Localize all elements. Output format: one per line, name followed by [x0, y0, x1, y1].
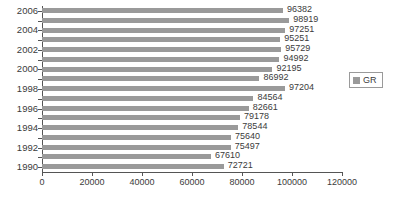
bar-row: 75497: [42, 143, 342, 153]
x-axis-label-60000: 60000: [179, 177, 204, 188]
bar-value-label: 79178: [244, 111, 269, 121]
bar: [42, 115, 240, 120]
bar-value-label: 94992: [283, 53, 308, 63]
bar-row: 82661: [42, 104, 342, 114]
y-axis-tick: [38, 109, 42, 110]
x-axis-label-120000: 120000: [327, 177, 357, 188]
bar-value-label: 95251: [284, 33, 309, 43]
bar-value-label: 95729: [285, 43, 310, 53]
bar-value-label: 67610: [215, 150, 240, 160]
bar-value-label: 92195: [276, 63, 301, 73]
x-axis: 020000400006000080000100000120000: [42, 172, 343, 202]
legend-label-gr: GR: [363, 75, 377, 85]
y-axis-tick: [38, 138, 42, 139]
bar: [42, 8, 283, 13]
bar-value-label: 86992: [263, 72, 288, 82]
bar-value-label: 97251: [289, 24, 314, 34]
bar-value-label: 82661: [253, 102, 278, 112]
y-axis-tick: [38, 21, 42, 22]
bar: [42, 28, 285, 33]
bar-value-label: 72721: [228, 160, 253, 170]
bar-row: 75640: [42, 133, 342, 143]
bar: [42, 154, 211, 159]
y-axis-tick: [38, 50, 42, 51]
bar: [42, 67, 272, 72]
x-axis-tick: [42, 172, 43, 176]
bar-value-label: 75640: [235, 131, 260, 141]
bar-value-label: 98919: [293, 14, 318, 24]
x-axis-tick: [242, 172, 243, 176]
x-axis-label-0: 0: [39, 177, 44, 188]
y-axis-tick: [38, 40, 42, 41]
bar: [42, 76, 259, 81]
y-axis-label-1994: 1994: [17, 123, 38, 133]
y-axis-label-2006: 2006: [17, 6, 38, 16]
bar-row: 84564: [42, 94, 342, 104]
y-axis-tick: [38, 89, 42, 90]
y-axis-label-2004: 2004: [17, 25, 38, 35]
y-axis-tick: [38, 148, 42, 149]
y-axis-tick: [38, 11, 42, 12]
bar-value-label: 84564: [257, 92, 282, 102]
y-axis-label-1990: 1990: [17, 162, 38, 172]
y-axis-tick: [38, 79, 42, 80]
x-axis-label-80000: 80000: [229, 177, 254, 188]
y-axis-tick: [38, 99, 42, 100]
bar-value-label: 78544: [242, 121, 267, 131]
x-axis-label-100000: 100000: [277, 177, 307, 188]
y-axis-tick: [38, 128, 42, 129]
y-axis-label-2000: 2000: [17, 64, 38, 74]
y-axis-tick: [38, 118, 42, 119]
x-axis-label-40000: 40000: [129, 177, 154, 188]
x-axis-label-20000: 20000: [79, 177, 104, 188]
bar-value-label: 75497: [235, 141, 260, 151]
bar: [42, 164, 224, 169]
bar: [42, 86, 285, 91]
bar-value-label: 97204: [289, 82, 314, 92]
bar-row: 92195: [42, 65, 342, 75]
legend-swatch-gr: [353, 77, 360, 84]
bar-value-label: 96382: [287, 4, 312, 14]
x-axis-tick: [92, 172, 93, 176]
y-axis-tick: [38, 60, 42, 61]
y-axis-category-labels: 200620042002200019981996199419921990: [0, 6, 38, 172]
bar: [42, 135, 231, 140]
y-axis-label-2002: 2002: [17, 45, 38, 55]
bar-chart: 200620042002200019981996199419921990 963…: [0, 0, 395, 202]
bar-row: 72721: [42, 162, 342, 172]
bar: [42, 106, 249, 111]
x-axis-tick: [292, 172, 293, 176]
x-axis-tick: [192, 172, 193, 176]
y-axis-tick: [38, 157, 42, 158]
y-axis-label-1998: 1998: [17, 84, 38, 94]
bar: [42, 57, 279, 62]
bar: [42, 125, 238, 130]
y-axis-label-1996: 1996: [17, 104, 38, 114]
bar: [42, 47, 281, 52]
y-axis-tick: [38, 69, 42, 70]
bar: [42, 96, 253, 101]
bar-row: 67610: [42, 152, 342, 162]
y-axis-tick: [38, 167, 42, 168]
x-axis-tick: [342, 172, 343, 176]
plot-area: 9638298919972519525195729949929219586992…: [42, 6, 342, 172]
bar: [42, 145, 231, 150]
x-axis-tick: [142, 172, 143, 176]
y-axis-label-1992: 1992: [17, 143, 38, 153]
chart-legend: GR: [349, 72, 383, 88]
y-axis-tick: [38, 30, 42, 31]
bar-row: 97204: [42, 84, 342, 94]
bar: [42, 37, 280, 42]
bar: [42, 18, 289, 23]
bar-row: 79178: [42, 113, 342, 123]
bar-row: 78544: [42, 123, 342, 133]
